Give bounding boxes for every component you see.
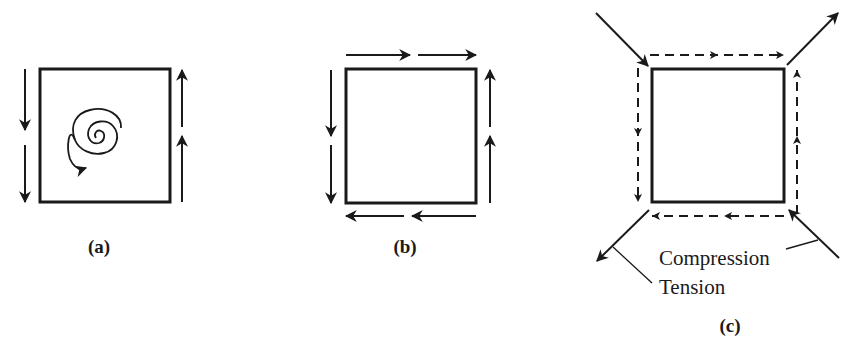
dashed-arrowheads-icon (634, 51, 801, 220)
panel-b: (b) (331, 55, 490, 258)
panel-a-label: (a) (88, 236, 110, 258)
shear-stress-diagram: (a) (b) (0, 0, 864, 356)
panel-a: (a) (25, 69, 182, 258)
panel-c: Compression Tension (c) (596, 13, 839, 337)
panel-b-label: (b) (393, 236, 416, 258)
principal-stress-arrows-icon (596, 13, 839, 261)
dashed-shear-arrows-icon (638, 55, 797, 216)
element-square-b (346, 69, 476, 203)
element-square-c (652, 69, 784, 202)
rotation-arrow-icon (68, 135, 86, 169)
tension-label: Tension (659, 275, 726, 299)
panel-c-label: (c) (719, 315, 740, 337)
compression-label: Compression (659, 246, 770, 270)
rotation-spiral-icon (73, 109, 121, 154)
